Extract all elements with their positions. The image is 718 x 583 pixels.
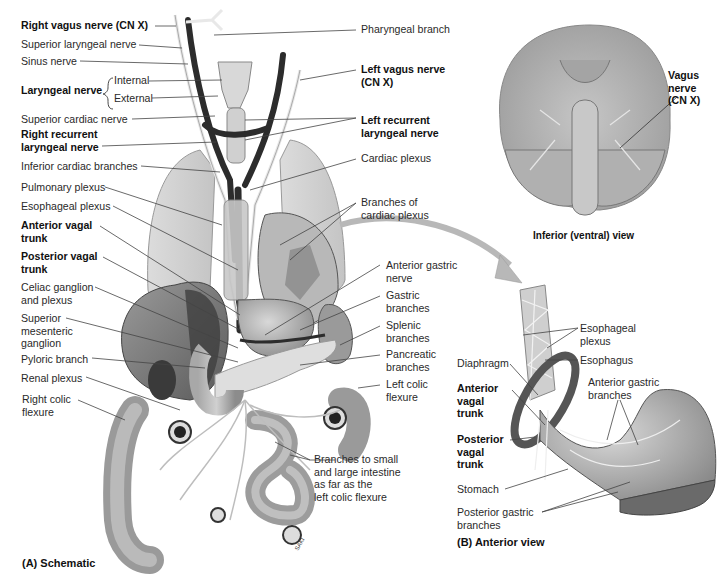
label-line: branches [457,519,534,532]
label-line: Vagus [668,69,700,82]
esophagus [224,200,248,300]
label-line: Posterior [457,433,504,446]
label-line: Right recurrent [21,128,99,141]
label-line: Left colic [386,378,428,391]
label-b-stomach: Stomach [457,483,499,496]
label-left-colic-flexure: Left colic flexure [386,378,428,403]
label-posterior-vagal-trunk: Posterior vagal trunk [21,250,98,275]
label-superior-cardiac-nerve: Superior cardiac nerve [21,113,128,126]
label-line: cardiac plexus [361,209,429,222]
label-b-esophageal-plexus: Esophageal plexus [580,322,636,347]
label-line: vagal [457,395,498,408]
panel-a-caption: (A) Schematic [22,557,95,569]
label-pyloric-branch: Pyloric branch [21,353,88,366]
label-pancreatic-branches: Pancreatic branches [386,348,436,373]
label-right-colic-flexure: Right colic flexure [22,393,71,418]
label-line: Left vagus nerve [361,63,445,76]
label-b-posterior-gastric-branches: Posterior gastric branches [457,506,534,531]
label-gastric-branches: Gastric branches [386,289,430,314]
label-line: Anterior [457,382,498,395]
label-line: flexure [386,391,428,404]
label-pharyngeal-branch: Pharyngeal branch [361,23,450,36]
label-right-recurrent-laryngeal-nerve: Right recurrent laryngeal nerve [21,128,99,153]
brainstem-inset [498,20,677,225]
label-superior-laryngeal-nerve: Superior laryngeal nerve [21,38,136,51]
label-line: flexure [22,406,71,419]
label-line: branches [386,332,430,345]
label-external: External [114,92,153,105]
label-line: Left recurrent [361,114,439,127]
label-branches-to-intestine: Branches to small and large intestine as… [314,453,401,503]
label-line: branches [386,361,436,374]
label-line: and plexus [21,294,93,307]
larynx-trachea [218,62,252,163]
label-line: Anterior gastric [588,376,659,389]
label-line: trunk [21,232,92,245]
label-line: trunk [457,407,498,420]
label-line: branches [588,389,659,402]
label-anterior-vagal-trunk: Anterior vagal trunk [21,219,92,244]
label-left-recurrent-laryngeal-nerve: Left recurrent laryngeal nerve [361,114,439,139]
label-left-vagus-nerve: Left vagus nerve (CN X) [361,63,445,88]
label-line: nerve [386,272,457,285]
label-b-esophagus: Esophagus [580,354,633,367]
label-superior-mesenteric-ganglion: Superior mesenteric ganglion [21,312,73,350]
label-line: trunk [457,458,504,471]
label-internal: Internal [114,74,149,87]
label-b-diaphragm: Diaphragm [457,357,509,370]
label-sinus-nerve: Sinus nerve [21,55,77,68]
label-branches-of-cardiac-plexus: Branches of cardiac plexus [361,196,429,221]
label-cardiac-plexus: Cardiac plexus [361,152,431,165]
label-b-posterior-vagal-trunk: Posterior vagal trunk [457,433,504,471]
label-line: (CN X) [361,76,445,89]
label-line: laryngeal nerve [361,127,439,140]
laryngeal-brace [103,78,113,109]
label-line: Branches to small [314,453,401,466]
label-right-vagus-nerve: Right vagus nerve (CN X) [21,19,148,32]
label-line: plexus [580,335,636,348]
label-b-anterior-gastric-branches: Anterior gastric branches [588,376,659,401]
label-line: Gastric [386,289,430,302]
label-line: Anterior gastric [386,259,457,272]
label-inferior-cardiac-branches: Inferior cardiac branches [21,160,138,173]
panel-b-caption: (B) Anterior view [457,536,545,548]
label-celiac-ganglion-plexus: Celiac ganglion and plexus [21,281,93,306]
inset-caption: Inferior (ventral) view [533,230,634,241]
label-line: ganglion [21,337,73,350]
label-line: Splenic [386,319,430,332]
label-renal-plexus: Renal plexus [21,372,82,385]
label-pulmonary-plexus: Pulmonary plexus [21,181,105,194]
label-line: laryngeal nerve [21,141,99,154]
label-line: mesenteric [21,325,73,338]
label-splenic-branches: Splenic branches [386,319,430,344]
label-inset-vagus-nerve: Vagus nerve (CN X) [668,69,700,107]
label-line: Esophageal [580,322,636,335]
label-line: trunk [21,263,98,276]
label-line: Posterior vagal [21,250,98,263]
label-laryngeal-nerve: Laryngeal nerve [21,84,102,97]
label-line: Superior [21,312,73,325]
label-line: nerve [668,82,700,95]
label-b-anterior-vagal-trunk: Anterior vagal trunk [457,382,498,420]
label-line: Posterior gastric [457,506,534,519]
label-line: Branches of [361,196,429,209]
label-anterior-gastric-nerve: Anterior gastric nerve [386,259,457,284]
label-line: Anterior vagal [21,219,92,232]
label-line: Celiac ganglion [21,281,93,294]
label-esophageal-plexus: Esophageal plexus [21,200,111,213]
label-line: and large intestine [314,466,401,479]
label-line: (CN X) [668,94,700,107]
label-line: branches [386,302,430,315]
label-line: left colic flexure [314,491,401,504]
label-line: as far as the [314,478,401,491]
label-line: Right colic [22,393,71,406]
label-line: Pancreatic [386,348,436,361]
label-line: vagal [457,446,504,459]
